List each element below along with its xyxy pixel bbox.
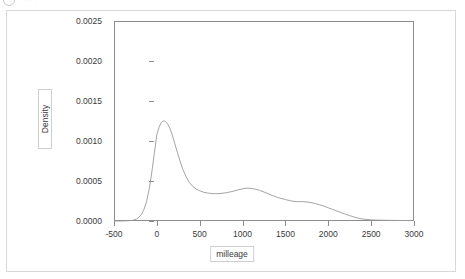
y-tick-mark: [149, 221, 154, 222]
y-axis-ticks: 0.00000.00050.00100.00150.00200.0025: [47, 11, 110, 273]
x-tick-mark: [285, 221, 286, 226]
x-axis-title: milleage: [210, 246, 254, 262]
y-tick-mark: [149, 181, 154, 182]
y-tick-label: 0.0025: [76, 16, 102, 26]
y-tick-label: 0.0005: [76, 176, 102, 186]
density-curve-svg: [114, 21, 414, 221]
y-tick-mark: [149, 101, 154, 102]
chart-card: 0.00000.00050.00100.00150.00200.0025 -50…: [6, 10, 456, 272]
x-tick-label: 3000: [405, 229, 424, 239]
y-tick-label: 0.0000: [76, 216, 102, 226]
topbar-title: ····: [20, 0, 39, 5]
x-tick-mark: [114, 221, 115, 226]
x-tick-mark: [243, 221, 244, 226]
x-tick-mark: [371, 221, 372, 226]
window-topbar: ····: [0, 0, 465, 8]
y-tick-label: 0.0020: [76, 56, 102, 66]
x-tick-label: -500: [105, 229, 122, 239]
x-tick-label: 2500: [362, 229, 381, 239]
x-tick-mark: [157, 221, 158, 226]
x-tick-label: 1500: [276, 229, 295, 239]
y-tick-mark: [149, 21, 154, 22]
x-tick-mark: [414, 221, 415, 226]
circle-icon: [3, 0, 15, 6]
density-curve-line: [114, 121, 414, 221]
y-tick-mark: [149, 141, 154, 142]
x-tick-label: 0: [154, 229, 159, 239]
x-tick-mark: [328, 221, 329, 226]
x-tick-mark: [200, 221, 201, 226]
y-tick-label: 0.0015: [76, 96, 102, 106]
x-tick-label: 500: [193, 229, 207, 239]
x-tick-label: 2000: [319, 229, 338, 239]
y-tick-mark: [149, 61, 154, 62]
y-axis-title-wrap: Density: [38, 89, 52, 149]
density-plot: 0.00000.00050.00100.00150.00200.0025 -50…: [7, 11, 457, 273]
x-tick-label: 1000: [233, 229, 252, 239]
y-tick-label: 0.0010: [76, 136, 102, 146]
y-axis-title: Density: [38, 89, 52, 149]
